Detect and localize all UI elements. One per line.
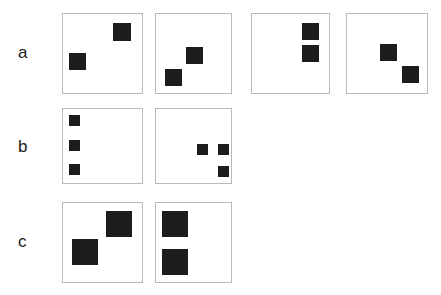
panel-c2 (155, 202, 232, 283)
panel-b1 (62, 108, 143, 184)
row-label-c: c (18, 233, 27, 250)
row-label-b: b (18, 138, 27, 155)
square-marker (165, 69, 182, 86)
square-marker (162, 249, 188, 275)
figure-canvas: abc (0, 0, 441, 295)
row-label-a: a (18, 44, 27, 61)
panel-a2 (155, 13, 232, 94)
square-marker (218, 144, 229, 155)
square-marker (72, 239, 98, 265)
square-marker (69, 53, 86, 70)
square-marker (69, 115, 80, 126)
panel-c1 (62, 202, 143, 283)
square-marker (162, 211, 188, 237)
square-marker (69, 164, 80, 175)
panel-b2 (155, 108, 232, 184)
panel-a1 (62, 13, 143, 94)
square-marker (106, 211, 132, 237)
square-marker (218, 166, 229, 177)
square-marker (380, 44, 397, 61)
square-marker (69, 140, 80, 151)
square-marker (186, 47, 203, 64)
square-marker (402, 66, 419, 83)
square-marker (197, 144, 208, 155)
square-marker (302, 45, 319, 62)
square-marker (302, 23, 319, 40)
panel-a4 (346, 13, 428, 94)
panel-a3 (251, 13, 330, 94)
square-marker (113, 23, 131, 41)
